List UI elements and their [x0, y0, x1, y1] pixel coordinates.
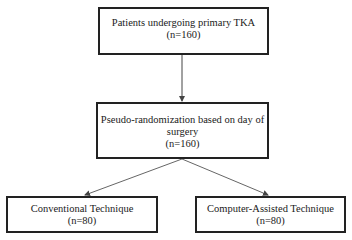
node-count: (n=80)	[256, 215, 285, 227]
node-label: Patients undergoing primary TKA	[112, 17, 255, 29]
arrow-middle-to-left	[85, 159, 182, 195]
node-label: Computer-Assisted Technique	[207, 203, 334, 215]
node-pseudo-randomization: Pseudo-randomization based on day of sur…	[96, 102, 269, 159]
node-label: Pseudo-randomization based on day of	[101, 114, 264, 126]
node-computer-assisted-technique: Computer-Assisted Technique (n=80)	[195, 196, 346, 233]
node-count: (n=160)	[166, 138, 200, 150]
node-label: Conventional Technique	[31, 203, 134, 215]
node-patients-tka: Patients undergoing primary TKA (n=160)	[98, 7, 269, 55]
node-label-cont: surgery	[167, 126, 198, 138]
node-count: (n=80)	[68, 215, 97, 227]
node-count: (n=160)	[167, 29, 201, 41]
node-conventional-technique: Conventional Technique (n=80)	[6, 196, 158, 233]
arrow-middle-to-right	[182, 159, 268, 195]
